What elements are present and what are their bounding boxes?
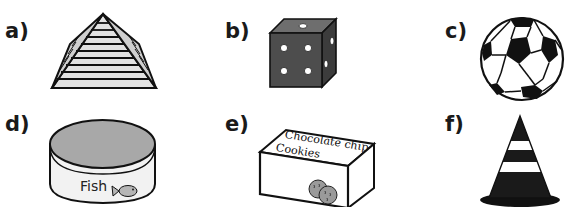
item-label-a: a) [5, 21, 29, 42]
traffic-cone-icon [475, 114, 565, 207]
tin-label-text: Fish [80, 178, 107, 194]
item-label-d: d) [5, 114, 30, 135]
soccer-ball-icon [479, 15, 565, 103]
item-label-b: b) [225, 21, 250, 42]
item-label-c: c) [445, 21, 467, 42]
item-label-f: f) [445, 114, 464, 135]
pyramid-icon [46, 12, 162, 92]
item-label-e: e) [225, 114, 249, 135]
die-icon [266, 16, 340, 90]
